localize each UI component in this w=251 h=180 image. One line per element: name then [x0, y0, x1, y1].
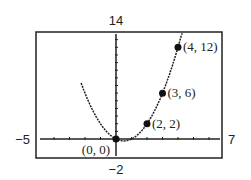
xmin-label: −5 — [15, 132, 30, 147]
point-label: (3, 6) — [168, 85, 196, 100]
ymin-label: −2 — [109, 162, 124, 177]
graph: (0, 0)(2, 2)(3, 6)(4, 12) 14 −2 −5 7 — [0, 0, 251, 180]
xmax-label: 7 — [228, 132, 235, 147]
point-label: (2, 2) — [152, 116, 180, 131]
data-point — [175, 44, 182, 51]
data-point — [159, 90, 166, 97]
point-label: (4, 12) — [183, 39, 218, 54]
data-point — [113, 136, 120, 143]
data-point — [144, 120, 151, 127]
ymax-label: 14 — [109, 13, 123, 28]
point-label: (0, 0) — [82, 142, 110, 157]
